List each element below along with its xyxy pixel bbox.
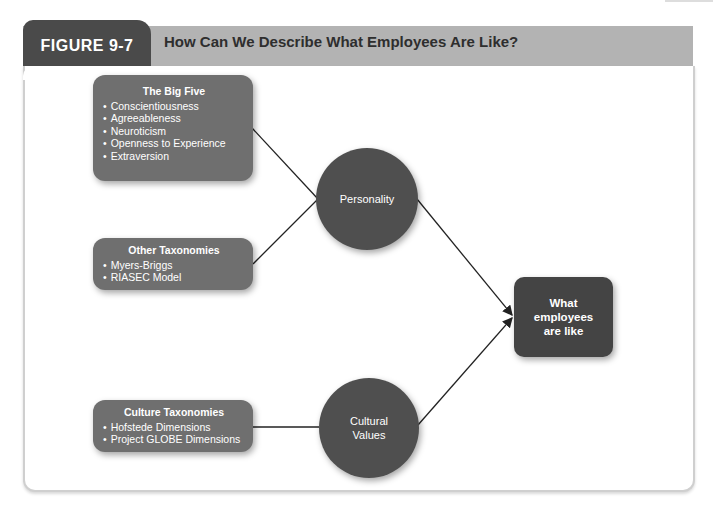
other-taxonomies-title: Other Taxonomies xyxy=(103,244,245,257)
big-five-box: The Big Five Conscientiousness Agreeable… xyxy=(93,75,253,181)
cultural-values-label-line1: Cultural xyxy=(350,414,388,428)
outcome-label-line3: are like xyxy=(544,324,584,338)
cultural-values-node: Cultural Values xyxy=(319,378,419,478)
outcome-label-line1: What xyxy=(549,296,577,310)
list-item: RIASEC Model xyxy=(103,271,245,284)
list-item: Myers-Briggs xyxy=(103,259,245,272)
other-taxonomies-box: Other Taxonomies Myers-Briggs RIASEC Mod… xyxy=(93,238,253,290)
other-taxonomies-list: Myers-Briggs RIASEC Model xyxy=(103,259,245,284)
personality-node: Personality xyxy=(316,148,418,250)
culture-taxonomies-box: Culture Taxonomies Hofstede Dimensions P… xyxy=(93,400,253,452)
cultural-values-label-line2: Values xyxy=(353,428,386,442)
outcome-label-line2: employees xyxy=(534,310,593,324)
big-five-list: Conscientiousness Agreeableness Neurotic… xyxy=(103,100,245,163)
list-item: Project GLOBE Dimensions xyxy=(103,433,245,446)
culture-taxonomies-title: Culture Taxonomies xyxy=(103,406,245,419)
culture-taxonomies-list: Hofstede Dimensions Project GLOBE Dimens… xyxy=(103,421,245,446)
big-five-title: The Big Five xyxy=(103,85,245,98)
list-item: Agreeableness xyxy=(103,112,245,125)
outcome-box: What employees are like xyxy=(514,277,613,357)
personality-label: Personality xyxy=(340,192,394,206)
list-item: Openness to Experience xyxy=(103,137,245,150)
list-item: Hofstede Dimensions xyxy=(103,421,245,434)
list-item: Conscientiousness xyxy=(103,100,245,113)
list-item: Extraversion xyxy=(103,150,245,163)
list-item: Neuroticism xyxy=(103,125,245,138)
